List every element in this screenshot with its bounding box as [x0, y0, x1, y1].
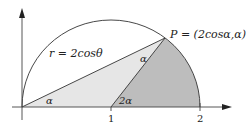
y-axis-arrow-icon — [19, 8, 25, 18]
curve-label: r = 2cosθ — [49, 47, 103, 60]
polar-diagram: r = 2cosθ P = (2cosα,α) α α 2α 1 2 — [0, 0, 248, 128]
x-tick-label-1: 1 — [108, 113, 114, 124]
point-label: P = (2cosα,α) — [169, 28, 246, 41]
x-axis-arrow-icon — [222, 104, 232, 110]
angle-center-label: 2α — [118, 95, 132, 106]
angle-origin-label: α — [46, 95, 53, 106]
angle-p-label: α — [140, 53, 147, 64]
x-tick-label-2: 2 — [197, 113, 203, 124]
